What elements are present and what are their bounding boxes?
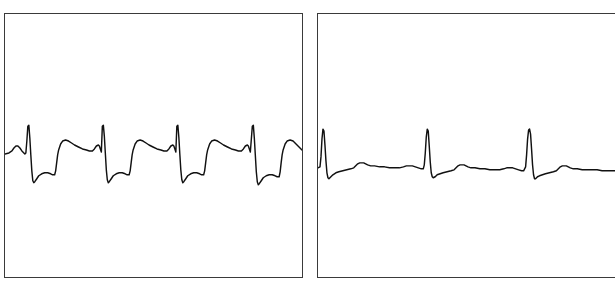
ecg-trace-left bbox=[5, 125, 302, 185]
ecg-strip-right bbox=[317, 13, 615, 278]
ecg-chart-left bbox=[5, 14, 302, 277]
ecg-strip-left bbox=[4, 13, 303, 278]
ecg-trace-right bbox=[318, 129, 615, 179]
ecg-chart-right bbox=[318, 14, 615, 277]
ecg-figure bbox=[0, 0, 615, 285]
